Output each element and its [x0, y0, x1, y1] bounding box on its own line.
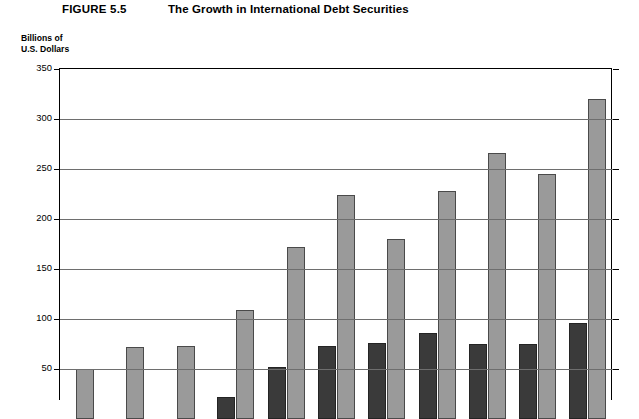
figure-label: FIGURE 5.5 — [62, 3, 127, 15]
bar-dark-7 — [368, 343, 386, 419]
y-tick-right-300 — [613, 119, 619, 120]
y-axis-label-100: 100 — [18, 312, 52, 323]
y-axis-label-250: 250 — [18, 162, 52, 173]
y-axis-caption: Billions of U.S. Dollars — [21, 33, 69, 54]
y-tick-350 — [54, 69, 60, 70]
y-axis-label-300: 300 — [18, 112, 52, 123]
bar-light-10 — [538, 174, 556, 419]
bar-dark-4 — [217, 397, 235, 419]
bar-light-3 — [177, 346, 195, 419]
y-tick-150 — [54, 269, 60, 270]
gridline-50 — [60, 369, 613, 370]
bar-light-6 — [337, 195, 355, 419]
bar-light-11 — [588, 99, 606, 419]
y-tick-300 — [54, 119, 60, 120]
bar-light-2 — [126, 347, 144, 419]
bar-light-7 — [387, 239, 405, 419]
bar-dark-8 — [419, 333, 437, 419]
gridline-100 — [60, 319, 613, 320]
gridline-200 — [60, 219, 613, 220]
bar-dark-10 — [519, 344, 537, 419]
y-tick-right-200 — [613, 219, 619, 220]
figure-header: FIGURE 5.5 The Growth in International D… — [0, 0, 639, 22]
y-axis-label-200: 200 — [18, 212, 52, 223]
y-tick-100 — [54, 319, 60, 320]
y-axis-label-150: 150 — [18, 262, 52, 273]
y-tick-right-100 — [613, 319, 619, 320]
y-tick-right-150 — [613, 269, 619, 270]
y-tick-50 — [54, 369, 60, 370]
bar-light-9 — [488, 153, 506, 419]
bar-dark-6 — [318, 346, 336, 419]
y-axis-label-350: 350 — [18, 62, 52, 73]
bar-dark-5 — [268, 367, 286, 419]
y-tick-right-50 — [613, 369, 619, 370]
bar-light-1 — [76, 369, 94, 419]
chart-plot-area — [59, 68, 612, 400]
bar-dark-9 — [469, 344, 487, 419]
gridline-300 — [60, 119, 613, 120]
bar-light-8 — [438, 191, 456, 419]
y-axis-label-50: 50 — [18, 362, 52, 373]
y-tick-250 — [54, 169, 60, 170]
y-tick-right-350 — [613, 69, 619, 70]
gridline-150 — [60, 269, 613, 270]
figure-title: The Growth in International Debt Securit… — [168, 3, 409, 15]
bar-light-5 — [287, 247, 305, 419]
bar-light-4 — [236, 310, 254, 419]
gridline-250 — [60, 169, 613, 170]
y-tick-right-250 — [613, 169, 619, 170]
bar-dark-11 — [569, 323, 587, 419]
y-tick-200 — [54, 219, 60, 220]
